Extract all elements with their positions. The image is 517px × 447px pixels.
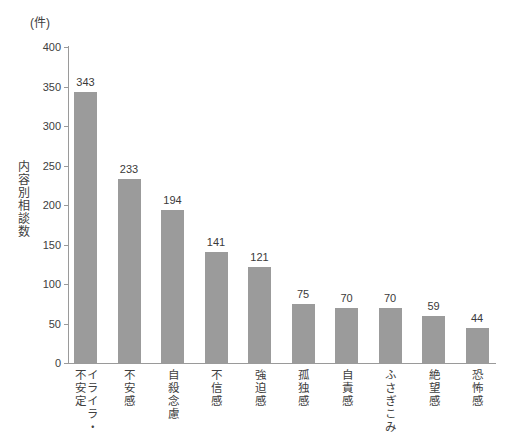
x-category-label: 自責感 [327,369,367,408]
x-category-label: ふさぎこみ [370,369,410,434]
plot-area: 400350300250200150100500 343233194141121… [68,47,495,363]
x-category-label-line: 自責感 [340,369,352,408]
bar-value-label: 75 [297,288,309,300]
x-category-label-line: 恐怖感 [471,369,483,408]
y-tick-mark [64,284,68,285]
y-tick-label: 0 [55,357,61,369]
x-category-label-line: 強迫感 [253,369,265,408]
x-category-label: イライラ・不安定 [66,369,106,434]
bar: 121 [248,267,271,363]
x-category-label: 不安感 [109,369,149,408]
bar-value-label: 59 [427,300,439,312]
y-tick-label: 200 [43,199,61,211]
bar-value-label: 343 [76,76,94,88]
bar-value-label: 70 [340,292,352,304]
y-axis-title: 内容別相談数 [10,160,28,238]
bar-value-label: 70 [384,292,396,304]
bar: 59 [422,316,445,363]
bar: 70 [379,308,402,363]
y-tick-label: 150 [43,239,61,251]
y-tick-label: 400 [43,41,61,53]
bar: 343 [74,92,97,363]
x-category-label-line: 不安定 [73,369,85,408]
x-category-label: 恐怖感 [457,369,497,408]
x-category-label: 孤独感 [283,369,323,408]
bar: 194 [161,210,184,363]
y-tick-label: 350 [43,81,61,93]
bar-value-label: 194 [163,194,181,206]
y-axis-unit-label: (件) [30,13,50,30]
bar-value-label: 233 [120,163,138,175]
x-category-label-line: 孤独感 [297,369,309,408]
y-tick-mark [64,47,68,48]
y-tick-mark [64,324,68,325]
x-category-label: 自殺念慮 [153,369,193,421]
y-tick-mark [64,87,68,88]
y-tick-mark [64,126,68,127]
x-category-label: 強迫感 [240,369,280,408]
bar: 141 [205,252,228,363]
x-category-label-line: ふさぎこみ [384,369,396,434]
bar: 75 [292,304,315,363]
x-category-label-line: 不安感 [123,369,135,408]
y-tick-label: 250 [43,160,61,172]
x-category-label-line: 自殺念慮 [166,369,178,421]
y-tick-mark [64,245,68,246]
x-category-label: 不信感 [196,369,236,408]
y-tick-mark [64,166,68,167]
x-category-label: 絶望感 [414,369,454,408]
bar: 44 [466,328,489,363]
x-category-label-line: 絶望感 [427,369,439,408]
bar: 233 [118,179,141,363]
bar-value-label: 141 [207,236,225,248]
bar: 70 [335,308,358,363]
x-axis-line [68,363,496,364]
bar-value-label: 44 [471,312,483,324]
x-category-label-line: イライラ・ [86,369,98,434]
y-tick-mark [64,363,68,364]
x-category-label-line: 不信感 [210,369,222,408]
y-tick-mark [64,205,68,206]
bar-chart: (件) 内容別相談数 400350300250200150100500 3432… [0,0,517,447]
y-tick-label: 50 [49,318,61,330]
bar-value-label: 121 [250,251,268,263]
y-tick-label: 100 [43,278,61,290]
y-tick-label: 300 [43,120,61,132]
